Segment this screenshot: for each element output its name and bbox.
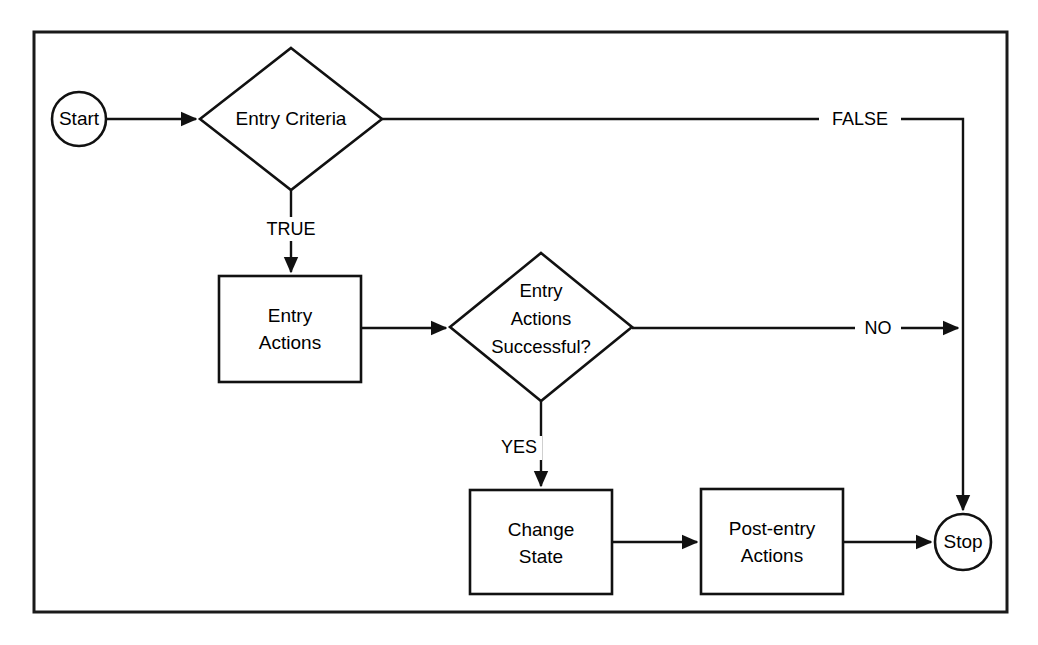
change-state-label-line2: State <box>519 546 563 567</box>
entry-actions-successful-label-line2: Actions <box>511 308 572 329</box>
start-label: Start <box>59 108 100 129</box>
post-entry-actions-rect <box>701 489 843 594</box>
entry-actions-label-line1: Entry <box>268 305 313 326</box>
node-stop[interactable]: Stop <box>935 514 991 570</box>
flowchart-canvas: Start Entry Criteria Entry Actions Entry… <box>0 0 1038 645</box>
entry-criteria-label: Entry Criteria <box>236 108 347 129</box>
change-state-label-line1: Change <box>508 519 575 540</box>
post-entry-actions-label-line1: Post-entry <box>729 518 816 539</box>
entry-actions-successful-label-line3: Successful? <box>491 336 591 357</box>
node-entry-actions-successful[interactable]: Entry Actions Successful? <box>450 253 632 401</box>
node-entry-actions[interactable]: Entry Actions <box>219 276 361 382</box>
post-entry-actions-label-line2: Actions <box>741 545 803 566</box>
entry-actions-rect <box>219 276 361 382</box>
node-change-state[interactable]: Change State <box>470 490 612 594</box>
change-state-rect <box>470 490 612 594</box>
node-post-entry-actions[interactable]: Post-entry Actions <box>701 489 843 594</box>
edge-label-no: NO <box>865 318 892 338</box>
node-entry-criteria[interactable]: Entry Criteria <box>200 48 382 190</box>
node-start[interactable]: Start <box>52 92 106 146</box>
entry-actions-successful-label-line1: Entry <box>519 280 563 301</box>
edge-label-true: TRUE <box>267 219 316 239</box>
flowchart-diagram: Start Entry Criteria Entry Actions Entry… <box>0 0 1038 645</box>
stop-label: Stop <box>943 531 982 552</box>
edge-label-yes: YES <box>501 437 537 457</box>
edge-label-false: FALSE <box>832 109 888 129</box>
entry-actions-label-line2: Actions <box>259 332 321 353</box>
